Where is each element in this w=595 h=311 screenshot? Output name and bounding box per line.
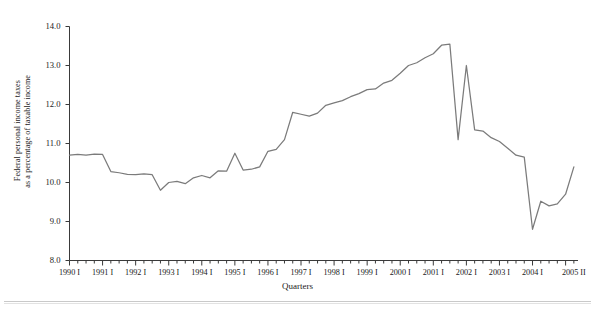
x-axis-title: Quarters (0, 281, 595, 291)
y-tick-label: 11.0 (33, 139, 61, 148)
chart-tick-marks (66, 27, 574, 266)
footer-rule (4, 301, 591, 302)
chart-figure: Federal personal income taxes as a perce… (0, 0, 595, 311)
y-tick-label: 12.0 (33, 100, 61, 109)
footer-rule-shadow (4, 303, 591, 304)
y-tick-label: 10.0 (33, 178, 61, 187)
line-chart-plot (0, 0, 595, 311)
y-tick-label: 8.0 (33, 256, 61, 265)
y-tick-label: 9.0 (33, 217, 61, 226)
x-tick-label: 2005 II (550, 269, 595, 277)
y-tick-label: 14.0 (33, 22, 61, 31)
y-tick-label: 13.0 (33, 61, 61, 70)
data-series-line (70, 44, 574, 229)
